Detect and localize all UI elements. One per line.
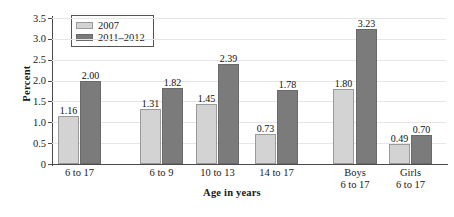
- bar: 1.80: [333, 89, 354, 164]
- bar-value-label: 1.78: [279, 79, 297, 90]
- bar: 0.73: [255, 134, 276, 164]
- gridline: [52, 101, 446, 102]
- y-axis-title: Percent: [21, 44, 32, 124]
- bar: 0.70: [411, 135, 432, 164]
- bar: 0.49: [389, 144, 410, 164]
- gridline: [52, 122, 446, 123]
- bar-value-label: 2.39: [220, 53, 238, 64]
- bar-value-label: 1.31: [142, 98, 160, 109]
- bar: 1.82: [162, 88, 183, 164]
- bar-value-label: 2.00: [82, 70, 100, 81]
- gridline: [52, 18, 446, 19]
- bar: 1.16: [58, 116, 79, 164]
- x-axis-line: [52, 164, 448, 165]
- bar: 1.45: [196, 104, 217, 164]
- bar-value-label: 1.45: [198, 93, 216, 104]
- bar-chart: 2007 2011–2012 Percent 3.53.02.52.01.51.…: [0, 0, 454, 217]
- bar-value-label: 0.70: [413, 124, 431, 135]
- x-axis-title: Age in years: [0, 187, 454, 198]
- bar: 2.00: [80, 81, 101, 164]
- bar: 2.39: [218, 64, 239, 164]
- bar-value-label: 1.80: [335, 78, 353, 89]
- x-tick-label-line1: Girls: [400, 167, 421, 178]
- gridline: [52, 81, 446, 82]
- x-tick-label-line1: 14 to 17: [259, 167, 293, 178]
- gridline: [52, 60, 446, 61]
- x-axis-title-text: Age in years: [203, 187, 261, 198]
- bar-value-label: 0.49: [391, 133, 409, 144]
- bar-value-label: 3.23: [358, 18, 376, 29]
- gridline: [52, 39, 446, 40]
- bar-value-label: 1.16: [60, 105, 78, 116]
- gridline: [52, 143, 446, 144]
- bar: 1.31: [140, 109, 161, 164]
- y-tick-label: 0.5: [4, 138, 46, 149]
- bar-value-label: 0.73: [257, 123, 275, 134]
- bar-value-label: 1.82: [164, 77, 182, 88]
- y-tick-label: 3.5: [4, 13, 46, 24]
- plot-area: 1.162.001.311.821.452.390.731.781.803.23…: [52, 18, 446, 164]
- x-tick-label-line1: 6 to 17: [65, 167, 94, 178]
- bar: 3.23: [356, 29, 377, 164]
- bar: 1.78: [277, 90, 298, 164]
